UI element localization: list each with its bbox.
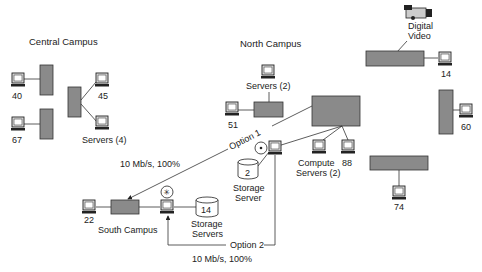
option-2-label: Option 2	[230, 240, 264, 250]
central-campus-label: Central Campus	[29, 36, 98, 47]
node-45: 45	[98, 91, 108, 101]
storage-label-1: Storage	[233, 183, 265, 193]
computer-icon	[225, 102, 239, 116]
north-servers-label: Servers (2)	[246, 81, 291, 91]
node-74: 74	[394, 202, 404, 212]
compute-label-2: Servers (2)	[296, 168, 341, 178]
svg-text:✳: ✳	[164, 188, 171, 197]
compute-server-icon	[312, 140, 326, 154]
digital-video-label-1: Digital	[408, 21, 433, 31]
computer-icon	[438, 52, 452, 66]
south-switch	[111, 200, 139, 214]
cd-disc-icon	[255, 142, 267, 154]
south-campus-label: South Campus	[98, 225, 158, 235]
node-88: 88	[342, 158, 352, 168]
server-icon	[261, 65, 275, 79]
sun-disc-icon: ✳	[161, 186, 173, 198]
north-main-switch	[312, 96, 360, 126]
computer-icon	[95, 116, 109, 130]
node-14: 14	[441, 69, 451, 79]
node-22: 22	[84, 215, 94, 225]
node-60: 60	[461, 122, 471, 132]
computer-icon	[95, 73, 109, 87]
south-storage-label-1: Storage	[191, 219, 223, 229]
computer-icon	[459, 104, 473, 118]
north-switch-small	[254, 102, 283, 117]
option-2-rate: 10 Mb/s, 100%	[192, 254, 252, 264]
digital-video-label-2: Video	[408, 31, 431, 41]
compute-label-1: Compute	[298, 158, 335, 168]
compute-server-icon	[341, 140, 355, 154]
storage-label-2: Server	[235, 193, 262, 203]
computer-icon	[11, 73, 25, 87]
network-diagram: Central Campus 40 67 45 Servers (4) Nort…	[0, 0, 482, 272]
node-40: 40	[12, 91, 22, 101]
computer-icon	[11, 117, 25, 131]
north-switch-74	[370, 156, 428, 170]
south-storage-label-2: Servers	[192, 229, 224, 239]
north-switch-60	[439, 90, 453, 134]
south-server-icon	[160, 200, 174, 214]
central-switch-1	[40, 65, 53, 95]
video-camera-icon	[404, 5, 432, 20]
central-switch-2	[40, 109, 53, 139]
storage-count-2: 2	[245, 168, 250, 178]
central-servers-label: Servers (4)	[82, 135, 127, 145]
south-storage-count: 14	[201, 205, 211, 215]
north-switch-video	[366, 51, 424, 66]
computer-icon	[82, 200, 96, 214]
node-51: 51	[228, 120, 238, 130]
central-switch-3	[68, 87, 81, 117]
node-67: 67	[12, 135, 22, 145]
computer-icon	[392, 186, 406, 200]
option-1-rate: 10 Mb/s, 100%	[120, 159, 180, 169]
north-campus-label: North Campus	[240, 38, 301, 49]
storage-server-computer-icon	[268, 141, 282, 155]
